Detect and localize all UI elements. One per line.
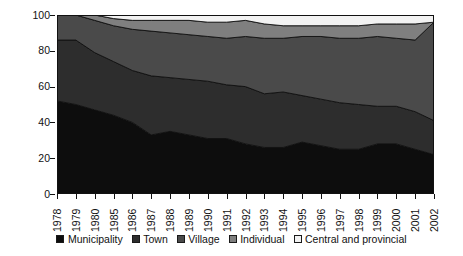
legend-swatch-icon <box>132 235 140 243</box>
x-tick-label: 1978 <box>51 198 65 232</box>
x-tick-label: 1990 <box>202 198 216 232</box>
x-axis-tick-labels: 1978197919801985198619871988198919901991… <box>0 0 463 256</box>
x-tick-label: 1986 <box>126 198 140 232</box>
legend-label: Village <box>188 233 219 245</box>
legend-item-central-and-provincial[interactable]: Central and provincial <box>294 233 407 245</box>
x-tick-label: 1980 <box>89 198 103 232</box>
x-tick-label: 1988 <box>164 198 178 232</box>
legend-item-town[interactable]: Town <box>132 233 168 245</box>
x-tick-label: 1993 <box>258 198 272 232</box>
x-tick-label: 2000 <box>390 198 404 232</box>
x-tick-label: 1991 <box>221 198 235 232</box>
legend-swatch-icon <box>177 235 185 243</box>
x-tick-label: 1994 <box>277 198 291 232</box>
legend-item-municipality[interactable]: Municipality <box>56 233 122 245</box>
legend-swatch-icon <box>56 235 64 243</box>
legend-swatch-icon <box>229 235 237 243</box>
x-tick-label: 1998 <box>353 198 367 232</box>
legend-label: Municipality <box>68 233 123 245</box>
x-tick-label: 1987 <box>145 198 159 232</box>
legend-item-village[interactable]: Village <box>177 233 220 245</box>
legend-item-individual[interactable]: Individual <box>229 233 285 245</box>
legend-label: Town <box>143 233 168 245</box>
x-tick-label: 1997 <box>334 198 348 232</box>
x-tick-label: 2001 <box>409 198 423 232</box>
x-tick-label: 1979 <box>70 198 84 232</box>
x-tick-label: 1992 <box>240 198 254 232</box>
x-tick-label: 1999 <box>371 198 385 232</box>
x-tick-label: 1996 <box>315 198 329 232</box>
legend-swatch-icon <box>294 235 302 243</box>
legend-label: Central and provincial <box>305 233 407 245</box>
x-tick-label: 1985 <box>108 198 122 232</box>
x-tick-label: 1995 <box>296 198 310 232</box>
chart-legend: MunicipalityTownVillageIndividualCentral… <box>0 231 463 247</box>
legend-label: Individual <box>240 233 284 245</box>
x-tick-label: 2002 <box>428 198 442 232</box>
stacked-area-chart-figure: Percentage 020406080100 1978197919801985… <box>0 0 463 256</box>
x-tick-label: 1989 <box>183 198 197 232</box>
